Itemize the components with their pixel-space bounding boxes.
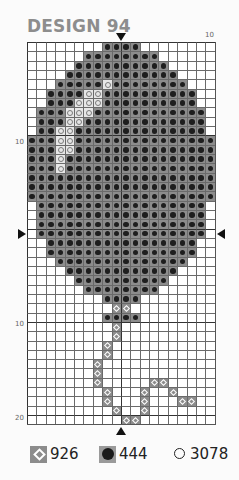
grid-cell xyxy=(177,201,186,210)
grid-cell xyxy=(205,415,214,424)
grid-cell xyxy=(205,61,214,70)
grid-cell xyxy=(140,182,149,191)
grid-cell xyxy=(158,182,167,191)
grid-cell xyxy=(112,135,121,144)
grid-cell xyxy=(168,294,177,303)
grid-cell xyxy=(177,191,186,200)
grid-cell xyxy=(102,201,111,210)
grid-cell xyxy=(27,266,36,275)
grid-cell xyxy=(102,387,111,396)
grid-cell xyxy=(74,145,83,154)
grid-cell xyxy=(187,275,196,284)
grid-cell xyxy=(36,396,45,405)
grid-cell xyxy=(46,378,55,387)
grid-cell xyxy=(112,191,121,200)
grid-cell xyxy=(102,247,111,256)
grid-cell xyxy=(140,387,149,396)
grid-cell xyxy=(93,51,102,60)
grid-cell xyxy=(140,415,149,424)
grid-cell xyxy=(112,257,121,266)
grid-cell xyxy=(27,173,36,182)
grid-cell xyxy=(168,191,177,200)
grid-cell xyxy=(27,117,36,126)
grid-cell xyxy=(55,154,64,163)
grid-cell xyxy=(121,191,130,200)
grid-cell xyxy=(196,219,205,228)
grid-cell xyxy=(196,331,205,340)
grid-cell xyxy=(74,275,83,284)
grid-cell xyxy=(121,229,130,238)
grid-cell xyxy=(158,266,167,275)
grid-cell xyxy=(93,191,102,200)
grid-cell xyxy=(177,229,186,238)
grid-cell xyxy=(140,163,149,172)
grid-cell xyxy=(196,107,205,116)
grid-cell xyxy=(102,322,111,331)
grid-cell xyxy=(121,135,130,144)
grid-cell xyxy=(112,322,121,331)
grid-cell xyxy=(187,61,196,70)
grid-cell xyxy=(55,117,64,126)
grid-cell xyxy=(205,396,214,405)
grid-cell xyxy=(83,89,92,98)
grid-cell xyxy=(46,368,55,377)
grid-cell xyxy=(205,322,214,331)
grid-cell xyxy=(205,406,214,415)
grid-cell xyxy=(149,294,158,303)
grid-cell xyxy=(112,406,121,415)
grid-cell xyxy=(187,145,196,154)
grid-cell xyxy=(102,350,111,359)
grid-cell xyxy=(149,51,158,60)
grid-cell xyxy=(140,210,149,219)
grid-cell xyxy=(93,257,102,266)
grid-cell xyxy=(168,247,177,256)
grid-cell xyxy=(46,396,55,405)
grid-cell xyxy=(27,51,36,60)
grid-cell xyxy=(93,42,102,51)
grid-cell xyxy=(112,117,121,126)
grid-cell xyxy=(36,322,45,331)
grid-cell xyxy=(121,368,130,377)
grid-cell xyxy=(46,201,55,210)
grid-cell xyxy=(168,303,177,312)
grid-cell xyxy=(102,238,111,247)
grid-cell xyxy=(27,191,36,200)
grid-cell xyxy=(140,98,149,107)
grid-cell xyxy=(158,341,167,350)
grid-cell xyxy=(177,378,186,387)
grid-cell xyxy=(83,210,92,219)
grid-cell xyxy=(205,219,214,228)
grid-cell xyxy=(168,89,177,98)
grid-cell xyxy=(27,359,36,368)
grid-cell xyxy=(93,210,102,219)
grid-cell xyxy=(149,387,158,396)
grid-cell xyxy=(177,257,186,266)
grid-cell xyxy=(168,70,177,79)
center-marker-right-icon xyxy=(217,229,225,239)
grid-cell xyxy=(46,79,55,88)
grid-cell xyxy=(205,238,214,247)
grid-cell xyxy=(187,173,196,182)
grid-cell xyxy=(121,42,130,51)
grid-cell xyxy=(196,229,205,238)
grid-cell xyxy=(27,396,36,405)
grid-cell xyxy=(93,313,102,322)
grid-cell xyxy=(177,126,186,135)
grid-cell xyxy=(121,415,130,424)
grid-cell xyxy=(121,322,130,331)
grid-cell xyxy=(196,322,205,331)
grid-cell xyxy=(74,126,83,135)
grid-cell xyxy=(130,219,139,228)
grid-cell xyxy=(130,331,139,340)
grid-cell xyxy=(140,229,149,238)
grid-cell xyxy=(36,126,45,135)
grid-cell xyxy=(158,359,167,368)
grid-cell xyxy=(121,145,130,154)
grid-cell xyxy=(83,322,92,331)
grid-cell xyxy=(83,182,92,191)
grid-cell xyxy=(168,201,177,210)
grid-cell xyxy=(187,126,196,135)
grid-cell xyxy=(130,98,139,107)
grid-cell xyxy=(83,257,92,266)
grid-cell xyxy=(158,378,167,387)
